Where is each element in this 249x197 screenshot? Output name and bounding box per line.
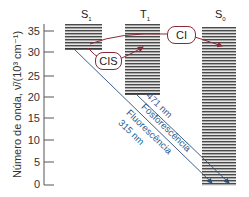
cis-label: CIS (95, 52, 122, 70)
jablonski-diagram: Número de onda, ν̄/(10³ cm⁻¹) 35 30 25 2… (0, 0, 249, 197)
state-label-s0: S0 (215, 8, 226, 22)
tick-label: 10 (20, 135, 40, 146)
tick-label: 20 (20, 92, 40, 103)
ci-label: CI (167, 26, 196, 44)
tick-label: 30 (20, 47, 40, 58)
tick-label: 0 (20, 179, 40, 190)
tick-label: 15 (20, 113, 40, 124)
tick-label: 35 (20, 26, 40, 37)
state-label-s1: S1 (81, 8, 92, 22)
tick-label: 5 (20, 157, 40, 168)
state-label-t1: T1 (140, 8, 150, 22)
y-axis (44, 24, 54, 185)
tick-label: 25 (20, 71, 40, 82)
state-s1-block (65, 24, 102, 49)
